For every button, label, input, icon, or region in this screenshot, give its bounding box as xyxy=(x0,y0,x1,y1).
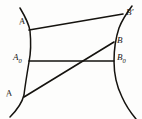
label-a-prime: A′ xyxy=(18,17,27,27)
label-a-zero: A0 xyxy=(13,53,22,64)
label-b-prime: B′ xyxy=(126,8,133,17)
label-a: A xyxy=(5,89,12,99)
label-b: B xyxy=(117,36,123,45)
chord-a-prime-b-prime xyxy=(29,14,123,30)
label-b-zero: B0 xyxy=(117,53,126,64)
geometric-figure: A′ B′ B B0 A0 A xyxy=(0,0,142,119)
chord-a-b xyxy=(24,42,114,97)
